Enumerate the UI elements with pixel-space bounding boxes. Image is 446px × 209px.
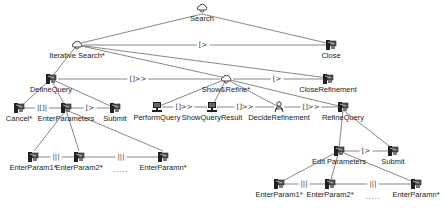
- interaction-task-icon: [13, 102, 25, 114]
- task-label: Iterative Search*: [49, 51, 104, 60]
- interaction-task-icon: [324, 178, 336, 190]
- interaction-task-icon: [157, 151, 169, 163]
- interaction-task-icon: [109, 102, 121, 114]
- task-model-diagram: [> []>> [> |[]| [> []>> []>> []>> [> |||…: [0, 0, 446, 209]
- task-label: Edit Parameters: [312, 157, 366, 166]
- ellipsis: .....: [366, 193, 381, 200]
- task-label: DefineQuery: [30, 85, 72, 94]
- operator-enabling-info: []>>: [300, 103, 321, 111]
- operator-interleaving: |||: [50, 153, 61, 161]
- task-label: Submit: [103, 114, 126, 123]
- task-label: EnterParamn*: [139, 163, 186, 172]
- task-label: ShowQueryResult: [182, 113, 242, 122]
- interaction-task-icon: [322, 73, 334, 85]
- task-label: EnterParam1*: [255, 190, 302, 199]
- operator-interleaving: |||: [115, 153, 126, 161]
- interaction-task-icon: [273, 178, 285, 190]
- operator-enabling-info: []>>: [127, 75, 148, 83]
- operator-disabling: [>: [197, 41, 210, 49]
- task-label: Search: [190, 14, 214, 23]
- interaction-task-icon: [333, 145, 345, 157]
- application-task-computer-icon: [151, 101, 163, 113]
- interaction-task-icon: [60, 102, 72, 114]
- task-label: EnterParameters: [38, 114, 95, 123]
- interaction-task-icon: [337, 101, 349, 113]
- task-label: EnterParam2*: [55, 163, 102, 172]
- operator-enabling-info: []>>: [173, 103, 194, 111]
- task-label: CloseRefinement: [299, 85, 357, 94]
- task-label: RefineQuery: [322, 113, 364, 122]
- operator-disabling: [>: [271, 75, 284, 83]
- interaction-task-icon: [45, 73, 57, 85]
- interaction-task-icon: [387, 145, 399, 157]
- task-label: DecideRefinement: [248, 113, 310, 122]
- abstract-task-cloud-icon: [196, 2, 208, 14]
- interaction-task-icon: [73, 151, 85, 163]
- operator-order-independence: |[]|: [35, 104, 49, 112]
- interaction-task-icon: [325, 39, 337, 51]
- operator-interleaving: |||: [298, 180, 309, 188]
- task-label: EnterParam1*: [9, 163, 56, 172]
- interaction-task-icon: [410, 178, 422, 190]
- interaction-task-icon: [27, 151, 39, 163]
- ellipsis: .....: [114, 166, 129, 173]
- abstract-task-cloud-icon: [71, 39, 83, 51]
- task-label: EnterParam2*: [306, 190, 353, 199]
- operator-enabling-info: []>>: [234, 103, 255, 111]
- task-label: Submit: [381, 157, 404, 166]
- abstract-task-cloud-icon: [220, 73, 232, 85]
- operator-disabling: [>: [360, 147, 373, 155]
- application-task-computer-icon: [206, 101, 218, 113]
- operator-interleaving: |||: [367, 180, 378, 188]
- operator-disabling: [>: [84, 104, 97, 112]
- task-label: Show&Refine*: [202, 85, 250, 94]
- task-label: EnterParamn*: [392, 190, 439, 199]
- task-label: Close: [321, 51, 340, 60]
- task-label: PerformQuery: [133, 113, 180, 122]
- user-task-person-icon: [273, 101, 285, 113]
- task-label: Cancel*: [6, 114, 32, 123]
